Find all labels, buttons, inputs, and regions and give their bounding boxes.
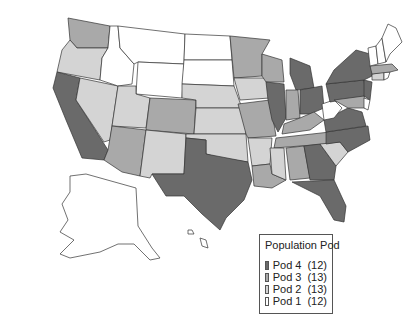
swatch-pod2 [265, 285, 269, 294]
legend-count: (13) [307, 283, 327, 295]
legend-count: (13) [307, 271, 327, 283]
legend-item-pod1: Pod 1 (12) [265, 295, 327, 307]
state-co [146, 98, 196, 134]
state-fl [292, 180, 346, 222]
state-de [364, 98, 370, 110]
state-ar [248, 138, 272, 166]
state-mi [290, 58, 314, 90]
legend-count: (12) [307, 295, 327, 307]
legend-label: Pod 4 [273, 259, 302, 271]
legend-label: Pod 3 [273, 271, 302, 283]
legend-item-pod3: Pod 3 (13) [265, 271, 327, 283]
state-ak [60, 174, 160, 260]
legend-label: Pod 2 [273, 283, 302, 295]
state-nd [184, 34, 232, 60]
state-ma [370, 64, 398, 74]
state-ny [326, 50, 372, 84]
us-map [0, 0, 418, 327]
legend-count: (12) [307, 259, 327, 271]
legend: Population Pod Pod 4 (12) Pod 3 (13) Pod… [259, 234, 333, 314]
state-wa [68, 18, 110, 48]
state-wy [136, 62, 184, 98]
state-wi [262, 54, 284, 82]
state-ks [194, 108, 246, 134]
legend-title: Population Pod [265, 239, 327, 251]
state-ia [234, 78, 270, 100]
state-in [286, 90, 300, 120]
swatch-pod3 [265, 273, 269, 282]
legend-item-pod2: Pod 2 (13) [265, 283, 327, 295]
legend-label: Pod 1 [273, 295, 302, 307]
state-nm [140, 130, 186, 178]
state-hi [200, 238, 208, 248]
swatch-pod4 [265, 261, 269, 270]
state-me [382, 24, 402, 62]
state-sd [182, 60, 234, 86]
swatch-pod1 [265, 297, 269, 306]
state-ri [384, 72, 390, 80]
state-oh [300, 86, 324, 114]
state-nj [364, 80, 372, 100]
state-hi-islands [188, 230, 194, 234]
legend-item-pod4: Pod 4 (12) [265, 259, 327, 271]
